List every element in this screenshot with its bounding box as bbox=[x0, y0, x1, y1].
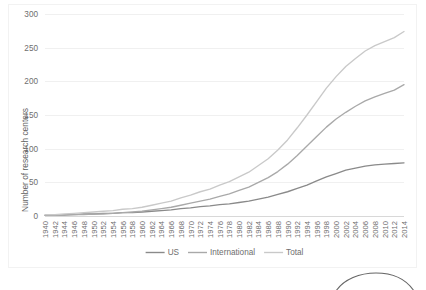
x-tick-label: 1990 bbox=[284, 221, 293, 238]
x-tick-label: 1986 bbox=[264, 221, 273, 238]
legend: USInternationalTotal bbox=[146, 248, 304, 257]
line-chart: 050100150200250300 Number of research ce… bbox=[0, 0, 426, 290]
x-tick-label: 2008 bbox=[371, 221, 380, 238]
x-tick-label: 2014 bbox=[400, 221, 409, 238]
legend-label-total: Total bbox=[286, 248, 303, 257]
x-tick-label: 1968 bbox=[177, 221, 186, 238]
y-axis-title-group: Number of research centers bbox=[20, 108, 30, 212]
x-tick-label: 2002 bbox=[342, 221, 351, 238]
chart-container: 050100150200250300 Number of research ce… bbox=[0, 0, 426, 290]
y-tick-label: 50 bbox=[29, 178, 39, 187]
x-tick-label: 2000 bbox=[332, 221, 341, 238]
x-tick-label: 1952 bbox=[99, 221, 108, 238]
y-axis-title: Number of research centers bbox=[20, 108, 30, 212]
series-line-us bbox=[45, 163, 404, 216]
x-tick-label: 1980 bbox=[235, 221, 244, 238]
x-tick-label: 1962 bbox=[148, 221, 157, 238]
y-tick-label: 200 bbox=[24, 77, 38, 86]
x-tick-label: 1982 bbox=[245, 221, 254, 238]
y-tick-label: 300 bbox=[24, 10, 38, 19]
x-tick-label: 2010 bbox=[381, 221, 390, 238]
y-tick-label: 0 bbox=[33, 212, 38, 221]
x-tick-label: 2012 bbox=[390, 221, 399, 238]
gridlines-group bbox=[45, 15, 404, 183]
x-tick-label: 1944 bbox=[60, 221, 69, 238]
x-tick-label: 1988 bbox=[274, 221, 283, 238]
x-tick-label: 1970 bbox=[187, 221, 196, 238]
series-line-total bbox=[45, 32, 404, 215]
page-curl-artifact bbox=[336, 273, 414, 290]
x-tick-label: 1954 bbox=[109, 221, 118, 238]
x-tick-label: 2006 bbox=[361, 221, 370, 238]
x-tick-label: 1976 bbox=[216, 221, 225, 238]
x-tick-label: 1984 bbox=[254, 221, 263, 238]
x-axis-ticks: 1940194219441946194819501952195419561958… bbox=[41, 221, 409, 238]
x-tick-label: 1964 bbox=[157, 221, 166, 238]
x-tick-label: 1958 bbox=[128, 221, 137, 238]
x-tick-label: 1994 bbox=[303, 221, 312, 238]
x-tick-label: 1974 bbox=[206, 221, 215, 238]
x-tick-label: 1946 bbox=[70, 221, 79, 238]
legend-label-international: International bbox=[210, 248, 255, 257]
x-tick-label: 1940 bbox=[41, 221, 50, 238]
y-tick-label: 250 bbox=[24, 44, 38, 53]
x-tick-label: 1960 bbox=[138, 221, 147, 238]
series-group bbox=[45, 32, 404, 216]
x-tick-label: 1978 bbox=[225, 221, 234, 238]
series-line-international bbox=[45, 85, 404, 216]
x-tick-label: 1950 bbox=[90, 221, 99, 238]
x-tick-label: 1998 bbox=[322, 221, 331, 238]
x-tick-label: 1966 bbox=[167, 221, 176, 238]
x-tick-label: 1956 bbox=[119, 221, 128, 238]
x-tick-label: 1996 bbox=[313, 221, 322, 238]
x-tick-label: 2004 bbox=[351, 221, 360, 238]
x-tick-label: 1942 bbox=[51, 221, 60, 238]
x-tick-label: 1948 bbox=[80, 221, 89, 238]
legend-label-us: US bbox=[168, 248, 180, 257]
x-tick-label: 1972 bbox=[196, 221, 205, 238]
x-tick-label: 1992 bbox=[293, 221, 302, 238]
